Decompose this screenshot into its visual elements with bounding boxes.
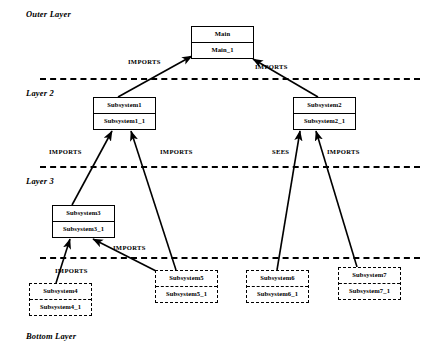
module-subsystem5-name: Subsystem5 bbox=[156, 271, 217, 287]
module-subsystem7[interactable]: Subsystem7 Subsystem7_1 bbox=[338, 267, 401, 300]
module-main-instance: Main_1 bbox=[192, 43, 253, 58]
module-subsystem2-instance: Subsystem2_1 bbox=[294, 114, 355, 129]
module-subsystem7-name: Subsystem7 bbox=[339, 268, 400, 284]
edge-label-imports-subsystem5-subsystem3: IMPORTS bbox=[113, 244, 146, 251]
module-subsystem6-name: Subsystem6 bbox=[247, 271, 308, 287]
module-main[interactable]: Main Main_1 bbox=[191, 26, 254, 59]
module-subsystem6-instance: Subsystem6_1 bbox=[247, 287, 308, 302]
module-subsystem4-instance: Subsystem4_1 bbox=[30, 300, 91, 315]
module-subsystem1-instance: Subsystem1_1 bbox=[94, 114, 155, 129]
module-subsystem3[interactable]: Subsystem3 Subsystem3_1 bbox=[52, 205, 115, 238]
edge-label-imports-subsystem3-subsystem1: IMPORTS bbox=[49, 148, 82, 155]
edge-e7-imports bbox=[56, 239, 70, 283]
edge-label-imports-subsystem7-subsystem2: IMPORTS bbox=[327, 148, 360, 155]
module-main-name: Main bbox=[192, 27, 253, 43]
edge-label-imports-subsystem4-subsystem3: IMPORTS bbox=[55, 267, 88, 274]
module-subsystem1[interactable]: Subsystem1 Subsystem1_1 bbox=[93, 97, 156, 130]
edge-label-imports-subsystem5-subsystem1: IMPORTS bbox=[160, 148, 193, 155]
module-subsystem2[interactable]: Subsystem2 Subsystem2_1 bbox=[293, 97, 356, 130]
module-subsystem1-name: Subsystem1 bbox=[94, 98, 155, 114]
module-subsystem5-instance: Subsystem5_1 bbox=[156, 287, 217, 302]
module-subsystem5[interactable]: Subsystem5 Subsystem5_1 bbox=[155, 270, 218, 303]
module-subsystem6[interactable]: Subsystem6 Subsystem6_1 bbox=[246, 270, 309, 303]
edge-e3-imports bbox=[72, 131, 112, 205]
edge-label-imports-subsystem2-main: IMPORTS bbox=[255, 63, 288, 70]
layered-architecture-diagram: Outer Layer Layer 2 Layer 3 Bottom Layer… bbox=[0, 0, 429, 349]
edge-label-sees-subsystem6-subsystem2: SEES bbox=[272, 148, 289, 155]
module-subsystem3-name: Subsystem3 bbox=[53, 206, 114, 222]
module-subsystem4-name: Subsystem4 bbox=[30, 284, 91, 300]
module-subsystem3-instance: Subsystem3_1 bbox=[53, 222, 114, 237]
module-subsystem7-instance: Subsystem7_1 bbox=[339, 284, 400, 299]
edge-label-imports-subsystem1-main: IMPORTS bbox=[128, 58, 161, 65]
module-subsystem2-name: Subsystem2 bbox=[294, 98, 355, 114]
module-subsystem4[interactable]: Subsystem4 Subsystem4_1 bbox=[29, 283, 92, 316]
